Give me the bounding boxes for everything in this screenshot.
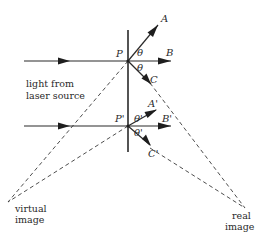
label-theta-prime-upper: θ' bbox=[134, 113, 143, 124]
label-source-line1: light from bbox=[26, 78, 74, 89]
incoming-ray-p bbox=[24, 58, 128, 65]
label-real-line1: real bbox=[232, 210, 251, 221]
label-a-prime: A' bbox=[147, 98, 158, 109]
arrowhead-icon bbox=[58, 58, 70, 65]
label-a: A bbox=[160, 13, 168, 24]
label-p-prime: P' bbox=[114, 113, 124, 124]
incoming-ray-pprime bbox=[24, 123, 128, 130]
label-c: C bbox=[150, 74, 158, 85]
arrowhead-icon bbox=[158, 58, 171, 65]
label-c-prime: C' bbox=[148, 148, 158, 159]
point-p-prime bbox=[126, 124, 129, 127]
label-b-prime: B' bbox=[161, 113, 172, 124]
dashed-line-c-real bbox=[150, 83, 245, 208]
label-p: P bbox=[115, 48, 123, 59]
label-virtual-line2: image bbox=[15, 214, 45, 225]
label-source-line2: laser source bbox=[26, 90, 85, 101]
dashed-line-pprime-virtual bbox=[8, 126, 128, 202]
ray-b bbox=[128, 58, 171, 65]
ray-diagram: P P' A B C A' B' C' θ θ θ' θ' light from… bbox=[0, 0, 260, 241]
label-b: B bbox=[165, 47, 173, 58]
dashed-line-cprime-real bbox=[150, 148, 245, 208]
label-theta-prime-lower: θ' bbox=[134, 127, 143, 138]
diagram-canvas: P P' A B C A' B' C' θ θ θ' θ' light from… bbox=[0, 0, 260, 241]
arrowhead-icon bbox=[145, 110, 158, 119]
point-p bbox=[126, 59, 129, 62]
label-theta-upper: θ bbox=[137, 47, 143, 58]
label-theta-lower: θ bbox=[137, 62, 143, 73]
label-virtual-line1: virtual bbox=[14, 203, 47, 214]
label-real-line2: image bbox=[225, 221, 255, 232]
arrowhead-icon bbox=[142, 135, 151, 147]
arrowhead-icon bbox=[58, 123, 70, 130]
